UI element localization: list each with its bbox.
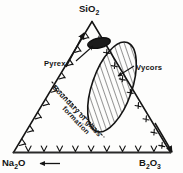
pyrex-label: Pyrex xyxy=(44,59,66,68)
vertex-label-na2o: Na2O xyxy=(2,157,25,170)
ternary-phase-diagram: SiO2 Na2O B2O3 Pyrex Vycors Boundary of … xyxy=(0,0,183,173)
vycors-label: Vycors xyxy=(136,63,162,72)
vertex-label-b2o3: B2O3 xyxy=(139,157,161,170)
left-edge-arrow-icon xyxy=(66,33,84,67)
bottom-edge-ticks xyxy=(26,146,157,152)
vertex-label-sio2: SiO2 xyxy=(79,3,99,16)
diagram-canvas: SiO2 Na2O B2O3 Pyrex Vycors Boundary of … xyxy=(0,0,183,173)
right-edge-arrow-icon xyxy=(155,123,172,152)
